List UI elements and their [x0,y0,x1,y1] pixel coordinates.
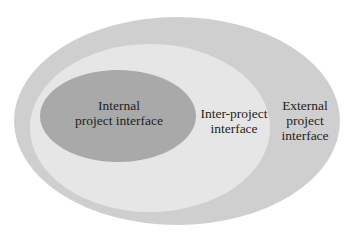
internal-label-line-1: Internal [52,98,186,113]
internal-label-line-2: project interface [52,113,186,128]
inter-project-interface-label: Inter-project interface [194,106,274,136]
inter-label-line-1: Inter-project [194,106,274,121]
external-project-interface-label: External project interface [272,98,338,143]
external-label-line-1: External [272,98,338,113]
external-label-line-2: project [272,113,338,128]
project-interface-diagram: Internal project interface Inter-project… [0,0,353,237]
inter-label-line-2: interface [194,121,274,136]
internal-project-interface-label: Internal project interface [52,98,186,128]
external-label-line-3: interface [272,128,338,143]
